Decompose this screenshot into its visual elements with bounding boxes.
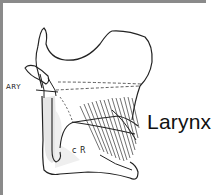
annotation-cr: c R xyxy=(72,146,86,155)
annotation-ary: ARY xyxy=(6,83,21,91)
larynx-sketch xyxy=(0,0,221,195)
figure-title: Larynx xyxy=(147,110,211,134)
